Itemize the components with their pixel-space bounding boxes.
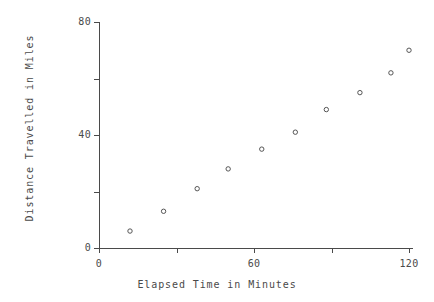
- data-point: [293, 130, 297, 134]
- data-point: [260, 147, 264, 151]
- data-point: [128, 229, 132, 233]
- x-axis-title: Elapsed Time in Minutes: [0, 279, 434, 290]
- data-point: [324, 107, 328, 111]
- y-axis-title: Distance Travelled in Miles: [24, 8, 35, 248]
- data-point: [407, 48, 411, 52]
- data-point: [389, 71, 393, 75]
- scatter-plot-figure: 04080060120 Elapsed Time in Minutes Dist…: [0, 0, 434, 302]
- data-point: [195, 186, 199, 190]
- y-tick-label-80: 80: [47, 16, 91, 27]
- data-point: [358, 90, 362, 94]
- y-tick-label-0: 0: [47, 242, 91, 253]
- plot-area: 04080060120 Elapsed Time in Minutes Dist…: [0, 0, 434, 302]
- data-point: [226, 167, 230, 171]
- x-tick-label-120: 120: [389, 258, 429, 269]
- plot-canvas: [0, 0, 434, 302]
- x-tick-label-60: 60: [234, 258, 274, 269]
- x-tick-label-0: 0: [79, 258, 119, 269]
- y-tick-label-40: 40: [47, 129, 91, 140]
- data-point: [161, 209, 165, 213]
